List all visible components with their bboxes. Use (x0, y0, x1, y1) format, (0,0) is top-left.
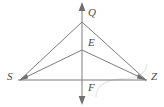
geometry-canvas (0, 0, 164, 107)
segment-EZ (82, 50, 146, 80)
vertex-label-E: E (88, 37, 95, 48)
segment-QZ (82, 22, 146, 80)
vertex-label-F: F (88, 82, 95, 93)
vertex-label-S: S (7, 71, 13, 82)
segment-SQ (20, 22, 82, 80)
vertical-line-QF (79, 2, 86, 105)
vertex-label-Z: Z (151, 71, 157, 82)
segment-SE (20, 50, 82, 80)
vertex-label-Q: Q (88, 7, 96, 18)
geometry-diagram: Q E S Z F (0, 0, 164, 107)
